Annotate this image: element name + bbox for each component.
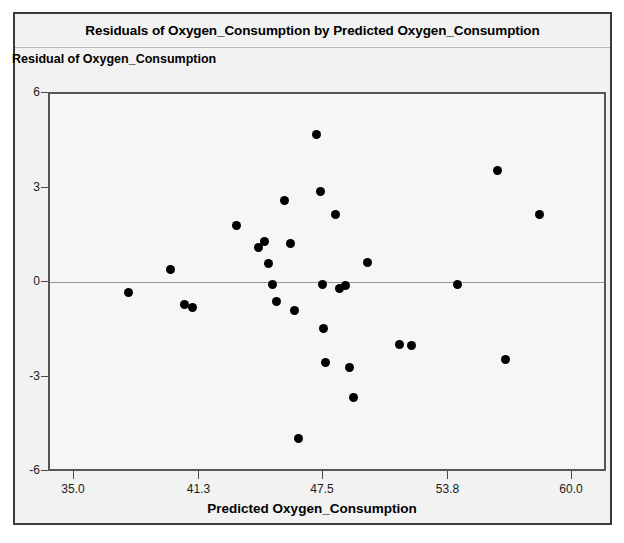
data-point [345,363,354,372]
y-tick-label: -3 [0,369,40,383]
x-axis-caption: Predicted Oxygen_Consumption [0,501,624,516]
data-point [341,281,350,290]
y-tick-mark [41,470,48,471]
y-tick-mark [41,187,48,188]
data-point [286,239,295,248]
x-tick-label: 60.0 [559,482,582,496]
chart-screenshot: Residuals of Oxygen_Consumption by Predi… [0,0,624,543]
x-tick-mark [73,471,74,479]
data-point [501,355,510,364]
data-point [395,340,404,349]
data-point [272,297,281,306]
x-tick-mark [447,471,448,479]
data-point [312,130,321,139]
x-tick-label: 35.0 [61,482,84,496]
data-point [280,196,289,205]
data-point [294,434,303,443]
y-tick-label: 6 [0,85,40,99]
data-point [453,280,462,289]
chart-title-band: Residuals of Oxygen_Consumption by Predi… [15,14,610,48]
x-tick-label: 53.8 [436,482,459,496]
data-point [321,358,330,367]
data-point [319,324,328,333]
data-point [318,280,327,289]
y-tick-label: 0 [0,274,40,288]
data-point [331,210,340,219]
x-tick-label: 47.5 [310,482,333,496]
data-point [166,265,175,274]
data-point [268,280,277,289]
zero-reference-line [50,282,604,283]
data-point [407,341,416,350]
data-point [188,303,197,312]
data-point [124,288,133,297]
y-tick-mark [41,376,48,377]
data-point [260,237,269,246]
data-point [316,187,325,196]
data-point [493,166,502,175]
y-axis-caption: Residual of Oxygen_Consumption [12,52,216,66]
y-tick-label: 3 [0,180,40,194]
data-point [232,221,241,230]
y-tick-mark [41,92,48,93]
data-point [363,258,372,267]
plot-canvas [50,94,604,469]
x-tick-mark [198,471,199,479]
x-tick-label: 41.3 [187,482,210,496]
data-point [535,210,544,219]
data-point [264,259,273,268]
data-point [290,306,299,315]
chart-title: Residuals of Oxygen_Consumption by Predi… [85,23,539,38]
x-tick-mark [322,471,323,479]
y-tick-label: -6 [0,463,40,477]
x-tick-mark [571,471,572,479]
data-point [349,393,358,402]
y-tick-mark [41,281,48,282]
plot-area [48,92,606,471]
